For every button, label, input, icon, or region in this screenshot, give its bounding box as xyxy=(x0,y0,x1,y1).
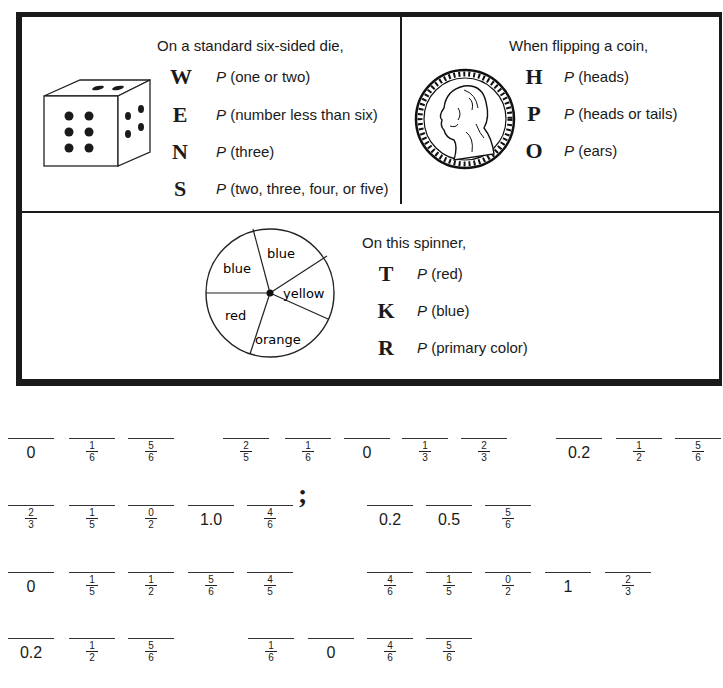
blank-line xyxy=(285,438,331,439)
fraction-value: 12 xyxy=(616,440,662,463)
decimal-value: 1.0 xyxy=(188,511,234,529)
blank-line xyxy=(426,572,472,573)
decimal-value: 0.2 xyxy=(367,511,413,529)
blank-line xyxy=(188,572,234,573)
blank-line xyxy=(426,505,472,506)
code-letter: R xyxy=(376,335,396,361)
fraction-value: 25 xyxy=(223,440,269,463)
spinner-icon: blue blue yellow orange red xyxy=(203,226,337,360)
die-header: On a standard six-sided die, xyxy=(157,37,344,54)
fraction-value: 02 xyxy=(485,574,531,597)
blank-line xyxy=(426,638,472,639)
blank-line xyxy=(8,438,54,439)
blank-line xyxy=(8,572,54,573)
blank-line xyxy=(247,572,293,573)
blank-line xyxy=(8,638,54,639)
blank-line xyxy=(188,505,234,506)
fraction-value: 56 xyxy=(426,640,472,663)
spinner-header: On this spinner, xyxy=(362,234,466,251)
punctuation-semicolon: ; xyxy=(298,478,307,510)
blank-line xyxy=(367,505,413,506)
probability-label: P (heads) xyxy=(564,68,629,85)
probability-label: P (one or two) xyxy=(216,68,310,85)
code-letter: H xyxy=(524,64,544,90)
fraction-value: 13 xyxy=(402,440,448,463)
svg-text:blue: blue xyxy=(267,246,295,261)
blank-line xyxy=(461,438,507,439)
fraction-value: 46 xyxy=(247,507,293,530)
svg-text:orange: orange xyxy=(255,332,301,347)
fraction-value: 56 xyxy=(128,640,174,663)
code-letter: E xyxy=(170,102,190,128)
code-letter: K xyxy=(376,298,396,324)
probability-label: P (ears) xyxy=(564,142,617,159)
fraction-value: 23 xyxy=(461,440,507,463)
fraction-value: 56 xyxy=(128,440,174,463)
fraction-value: 15 xyxy=(69,574,115,597)
svg-text:yellow: yellow xyxy=(283,286,325,301)
blank-line xyxy=(69,572,115,573)
blank-line xyxy=(344,438,390,439)
code-letter: S xyxy=(170,176,190,202)
fraction-value: 56 xyxy=(485,507,531,530)
fraction-value: 56 xyxy=(188,574,234,597)
blank-line xyxy=(247,505,293,506)
probability-label: P (red) xyxy=(417,265,463,282)
blank-line xyxy=(248,638,294,639)
blank-line xyxy=(545,572,591,573)
blank-line xyxy=(8,505,54,506)
decimal-value: 0 xyxy=(8,444,54,462)
probability-label: P (blue) xyxy=(417,302,470,319)
code-letter: O xyxy=(524,138,544,164)
code-letter: W xyxy=(170,64,190,90)
decimal-value: 0.5 xyxy=(426,511,472,529)
blank-line xyxy=(128,638,174,639)
decimal-value: 1 xyxy=(545,578,591,596)
blank-line xyxy=(128,572,174,573)
blank-line xyxy=(485,505,531,506)
fraction-value: 23 xyxy=(8,507,54,530)
blank-line xyxy=(485,572,531,573)
fraction-value: 46 xyxy=(367,640,413,663)
svg-text:red: red xyxy=(225,308,246,323)
blank-line xyxy=(128,505,174,506)
fraction-value: 45 xyxy=(247,574,293,597)
blank-line xyxy=(308,638,354,639)
fraction-value: 12 xyxy=(69,640,115,663)
fraction-value: 15 xyxy=(426,574,472,597)
decimal-value: 0 xyxy=(344,444,390,462)
fraction-value: 16 xyxy=(248,640,294,663)
blank-line xyxy=(223,438,269,439)
decimal-value: 0.2 xyxy=(556,444,602,462)
blank-line xyxy=(616,438,662,439)
fraction-value: 16 xyxy=(69,440,115,463)
blank-line xyxy=(402,438,448,439)
probability-label: P (heads or tails) xyxy=(564,105,677,122)
coin-icon xyxy=(414,68,516,170)
blank-line xyxy=(128,438,174,439)
blank-line xyxy=(69,505,115,506)
probability-label: P (two, three, four, or five) xyxy=(216,180,389,197)
coin-header: When flipping a coin, xyxy=(509,37,648,54)
blank-line xyxy=(367,638,413,639)
decimal-value: 0.2 xyxy=(8,644,54,662)
decimal-value: 0 xyxy=(308,644,354,662)
fraction-value: 23 xyxy=(605,574,651,597)
code-letter: N xyxy=(170,139,190,165)
panel-divider-vertical xyxy=(400,14,402,204)
fraction-value: 46 xyxy=(367,574,413,597)
fraction-value: 02 xyxy=(128,507,174,530)
fraction-value: 15 xyxy=(69,507,115,530)
probability-label: P (three) xyxy=(216,143,274,160)
code-letter: P xyxy=(524,101,544,127)
probability-label: P (primary color) xyxy=(417,339,528,356)
svg-text:blue: blue xyxy=(223,261,251,276)
fraction-value: 16 xyxy=(285,440,331,463)
blank-line xyxy=(69,438,115,439)
code-letter: T xyxy=(376,261,396,287)
decimal-value: 0 xyxy=(8,578,54,596)
blank-line xyxy=(675,438,721,439)
blank-line xyxy=(69,638,115,639)
blank-line xyxy=(367,572,413,573)
fraction-value: 12 xyxy=(128,574,174,597)
